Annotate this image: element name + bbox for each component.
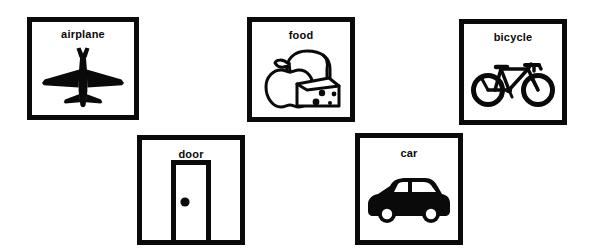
card-label-food: food [289, 29, 314, 41]
card-icon-slot-food [252, 41, 350, 117]
food-icon [261, 48, 341, 110]
door-icon [161, 158, 221, 245]
card-label-car: car [400, 147, 417, 159]
card-label-bicycle: bicycle [494, 31, 533, 43]
airplane-icon [41, 47, 125, 109]
card-board: airplane foo [0, 0, 590, 251]
card-door[interactable]: door [137, 135, 245, 245]
card-icon-slot-car [360, 159, 458, 240]
bicycle-icon [471, 56, 555, 108]
car-icon [367, 176, 451, 224]
bicycle-crank-hub [506, 86, 512, 92]
card-icon-slot-bicycle [464, 43, 562, 120]
door-knob-icon [180, 197, 189, 206]
card-icon-slot-airplane [32, 40, 134, 115]
card-bicycle[interactable]: bicycle [459, 19, 567, 125]
card-label-airplane: airplane [61, 28, 105, 40]
card-food[interactable]: food [247, 17, 355, 122]
card-icon-slot-door [142, 158, 240, 245]
card-airplane[interactable]: airplane [27, 17, 139, 120]
card-car[interactable]: car [355, 133, 463, 245]
